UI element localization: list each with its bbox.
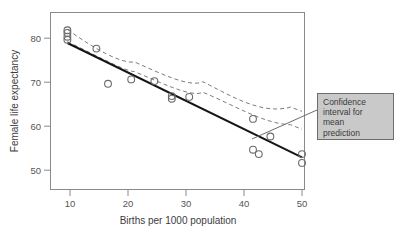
chart-figure: 80 70 60 50 10 20 30 40 50 Births per 10… [0,0,404,237]
x-tick-label-20: 20 [123,198,134,209]
y-tick-label-80: 80 [30,33,41,44]
y-tick-label-50: 50 [30,165,41,176]
y-tick-label-70: 70 [30,77,41,88]
plot-frame [51,13,305,190]
x-axis-title: Births per 1000 population [120,215,237,226]
confidence-interval-callout: Confidence interval for mean prediction [317,93,394,140]
x-tick-label-30: 30 [181,198,192,209]
y-tick-label-60: 60 [30,121,41,132]
x-tick-label-50: 50 [297,198,308,209]
x-axis-ticks [70,190,302,197]
x-tick-label-10: 10 [65,198,76,209]
x-tick-label-40: 40 [239,198,250,209]
y-axis-ticks [44,38,51,170]
y-axis-title: Female life expectancy [9,50,20,152]
confidence-interval-callout-text: Confidence interval for mean prediction [323,97,393,138]
